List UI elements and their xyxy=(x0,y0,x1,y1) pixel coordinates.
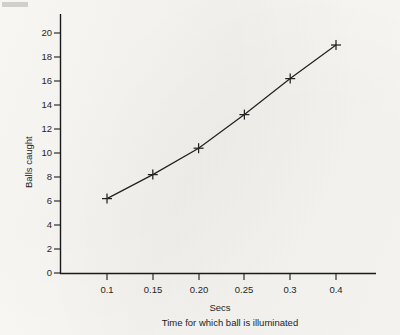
x-tick-label-3: 0.25 xyxy=(228,285,260,295)
x-tick-label-5: 0.4 xyxy=(320,285,352,295)
y-tick-label-14: 14 xyxy=(33,100,52,110)
data-point-marker xyxy=(194,143,204,153)
data-point-marker xyxy=(102,194,112,204)
y-tick-label-10: 10 xyxy=(33,148,52,158)
y-tick-label-20: 20 xyxy=(33,28,52,38)
data-point-markers xyxy=(102,40,341,204)
y-axis-ticks xyxy=(54,33,60,273)
y-tick-label-8: 8 xyxy=(36,172,52,182)
y-tick-label-4: 4 xyxy=(36,220,52,230)
y-axis-title: Balls caught xyxy=(24,136,34,188)
y-tick-label-6: 6 xyxy=(36,196,52,206)
y-tick-label-16: 16 xyxy=(33,76,52,86)
x-tick-label-0: 0.1 xyxy=(91,285,123,295)
x-tick-label-4: 0.3 xyxy=(274,285,306,295)
y-tick-label-0: 0 xyxy=(36,268,52,278)
y-tick-label-2: 2 xyxy=(36,244,52,254)
data-series-line xyxy=(107,45,336,199)
y-tick-label-18: 18 xyxy=(33,52,52,62)
x-axis-title: Secs xyxy=(160,303,280,313)
data-point-marker xyxy=(148,170,158,180)
x-axis-subtitle: Time for which ball is illuminated xyxy=(120,318,340,328)
x-tick-label-2: 0.20 xyxy=(183,285,215,295)
data-point-marker xyxy=(331,40,341,50)
y-tick-label-12: 12 xyxy=(33,124,52,134)
chart-figure: 0 2 4 6 8 10 12 14 16 18 20 0.1 0.15 0.2… xyxy=(0,0,400,335)
x-tick-label-1: 0.15 xyxy=(137,285,169,295)
